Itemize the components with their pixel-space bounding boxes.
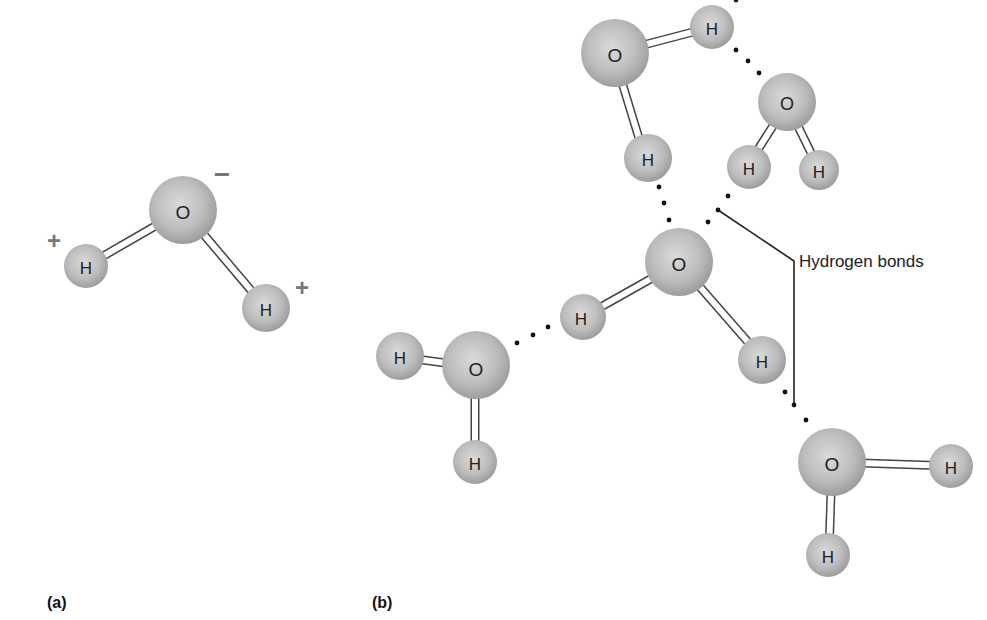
hydrogen-atom: H bbox=[690, 5, 734, 49]
oxygen-atom: O bbox=[798, 428, 866, 496]
water-hydrogen-bond-diagram: O H H − + + Hydrogen bonds bbox=[0, 0, 987, 620]
positive-charge-icon: + bbox=[295, 274, 309, 301]
svg-text:H: H bbox=[706, 20, 718, 39]
svg-text:H: H bbox=[394, 349, 406, 368]
hydrogen-atom: H bbox=[376, 332, 424, 380]
svg-text:O: O bbox=[672, 254, 687, 275]
svg-text:O: O bbox=[176, 202, 191, 223]
water-molecule-a: O H H − + + bbox=[47, 159, 309, 333]
svg-text:H: H bbox=[756, 353, 768, 372]
svg-text:H: H bbox=[743, 160, 755, 179]
hydrogen-atom: H bbox=[453, 440, 497, 484]
hydrogen-bonds-label: Hydrogen bonds bbox=[799, 252, 924, 271]
svg-text:H: H bbox=[822, 548, 834, 567]
panel-label-a: (a) bbox=[47, 594, 67, 612]
svg-text:O: O bbox=[608, 45, 623, 66]
svg-text:H: H bbox=[260, 301, 272, 320]
svg-text:O: O bbox=[469, 359, 484, 380]
negative-charge-icon: − bbox=[214, 159, 230, 190]
hydrogen-atom: H bbox=[560, 294, 606, 340]
svg-text:H: H bbox=[575, 310, 587, 329]
hydrogen-atom: H bbox=[624, 134, 672, 182]
water-molecule-bottom-right: O H H bbox=[798, 428, 973, 577]
oxygen-atom: O bbox=[581, 19, 649, 87]
water-molecule-top-left: O H H bbox=[581, 5, 734, 182]
oxygen-atom: O bbox=[645, 228, 713, 296]
oxygen-atom: O bbox=[758, 73, 816, 131]
hydrogen-atom: H bbox=[738, 336, 786, 384]
svg-text:H: H bbox=[642, 151, 654, 170]
svg-text:H: H bbox=[813, 163, 825, 182]
positive-charge-icon: + bbox=[47, 227, 61, 254]
svg-text:H: H bbox=[80, 259, 92, 278]
svg-text:H: H bbox=[469, 455, 481, 474]
svg-text:O: O bbox=[825, 454, 840, 475]
oxygen-atom: O bbox=[149, 176, 217, 244]
hydrogen-atom: H bbox=[64, 244, 108, 288]
panel-label-b: (b) bbox=[372, 594, 392, 612]
oxygen-atom: O bbox=[442, 331, 510, 399]
water-molecule-left: H O H bbox=[376, 331, 510, 484]
water-molecule-top-right: O H H bbox=[727, 73, 839, 190]
hydrogen-atom: H bbox=[727, 145, 771, 189]
svg-text:O: O bbox=[780, 94, 794, 114]
hydrogen-atom: H bbox=[806, 533, 850, 577]
water-molecule-center: O H H bbox=[560, 228, 786, 384]
hydrogen-atom: H bbox=[242, 284, 290, 332]
svg-text:H: H bbox=[945, 459, 957, 478]
hydrogen-atom: H bbox=[799, 150, 839, 190]
hydrogen-atom: H bbox=[929, 444, 973, 488]
